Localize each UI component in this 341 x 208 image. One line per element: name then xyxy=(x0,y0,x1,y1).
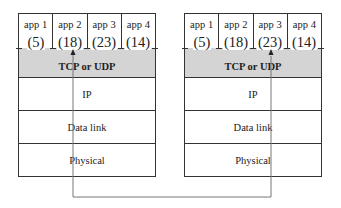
port-number: (5) xyxy=(27,34,46,50)
port-number: (23) xyxy=(257,34,283,50)
app-label: app 1 xyxy=(190,19,213,30)
transport-layer: TCP or UDP xyxy=(185,48,321,78)
physical-layer: Physical xyxy=(185,144,321,177)
port-app-1: (5) xyxy=(185,34,219,51)
app-label: app 3 xyxy=(93,19,116,30)
port-row: (5) (18) (23) (14) xyxy=(19,34,155,51)
port-app-4: (14) xyxy=(287,34,321,51)
ip-layer: IP xyxy=(19,78,155,111)
app-label: app 1 xyxy=(24,19,47,30)
port-number: (14) xyxy=(291,34,317,50)
app-label: app 2 xyxy=(224,19,247,30)
transport-layer: TCP or UDP xyxy=(19,48,155,78)
app-label: app 4 xyxy=(293,19,316,30)
transport-label: TCP or UDP xyxy=(19,61,155,72)
port-number: (5) xyxy=(193,34,212,50)
port-app-1: (5) xyxy=(19,34,53,51)
port-row: (5) (18) (23) (14) xyxy=(185,34,321,51)
app-label: app 2 xyxy=(58,19,81,30)
data-link-layer: Data link xyxy=(19,111,155,144)
left-host-stack: app 1 app 2 app 3 app 4 (5) (18) (23) (1… xyxy=(18,13,156,177)
port-number: (14) xyxy=(125,34,151,50)
port-number: (18) xyxy=(57,34,83,50)
physical-layer: Physical xyxy=(19,144,155,177)
port-number: (23) xyxy=(91,34,117,50)
port-app-4: (14) xyxy=(121,34,155,51)
app-label: app 4 xyxy=(127,19,150,30)
transport-label: TCP or UDP xyxy=(185,61,321,72)
port-app-2: (18) xyxy=(53,34,87,51)
port-number: (18) xyxy=(223,34,249,50)
port-app-3: (23) xyxy=(87,34,121,51)
app-label: app 3 xyxy=(259,19,282,30)
right-host-stack: app 1 app 2 app 3 app 4 (5) (18) (23) (1… xyxy=(184,13,322,177)
data-link-layer: Data link xyxy=(185,111,321,144)
port-app-3: (23) xyxy=(253,34,287,51)
port-app-2: (18) xyxy=(219,34,253,51)
ip-layer: IP xyxy=(185,78,321,111)
